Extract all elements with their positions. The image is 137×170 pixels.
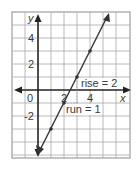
run-annotation: run = 1 xyxy=(66,103,101,115)
origin-label: 0 xyxy=(27,92,33,104)
y-tick-2: 2 xyxy=(28,58,34,70)
y-tick-4: 4 xyxy=(28,32,34,44)
point-1-neg3 xyxy=(49,127,53,131)
coordinate-graph: y x 0 2 4 4 2 -2 rise = 2 run = 1 xyxy=(0,0,137,170)
point-4-3 xyxy=(88,49,92,53)
x-axis-label: x xyxy=(119,92,126,104)
y-tick-neg2: -2 xyxy=(24,110,34,122)
rise-annotation: rise = 2 xyxy=(81,77,117,89)
point-3-1 xyxy=(75,75,79,79)
